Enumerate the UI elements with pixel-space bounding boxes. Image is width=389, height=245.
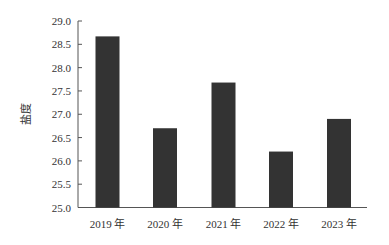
x-tick-label: 2022 年 [263, 217, 299, 230]
y-tick-label: 28.0 [52, 62, 72, 74]
y-tick-label: 25.5 [52, 178, 72, 190]
y-tick-label: 28.5 [52, 38, 72, 50]
y-axis: 25.025.526.026.527.027.528.028.529.0 [52, 15, 82, 214]
bar [212, 83, 236, 208]
y-tick-label: 26.5 [52, 132, 72, 144]
x-tick-label: 2020 年 [147, 217, 183, 230]
y-axis-title: 盐度 [19, 103, 32, 125]
y-tick-label: 25.0 [52, 202, 72, 214]
x-tick-label: 2019 年 [90, 217, 126, 230]
bar [327, 119, 351, 208]
bar [96, 36, 120, 207]
y-tick-label: 29.0 [52, 15, 72, 27]
y-tick-label: 27.0 [52, 108, 72, 120]
bars [96, 36, 352, 207]
x-tick-label: 2023 年 [321, 217, 357, 230]
bar [269, 152, 293, 208]
y-axis-title-group: 盐度 [19, 103, 32, 125]
x-axis-labels: 2019 年2020 年2021 年2022 年2023 年 [90, 217, 357, 230]
bar-chart: 盐度 25.025.526.026.527.027.528.028.529.0 … [0, 0, 389, 245]
y-tick-label: 27.5 [52, 85, 72, 97]
y-tick-label: 26.0 [52, 155, 72, 167]
x-tick-label: 2021 年 [206, 217, 242, 230]
bar [153, 128, 177, 207]
